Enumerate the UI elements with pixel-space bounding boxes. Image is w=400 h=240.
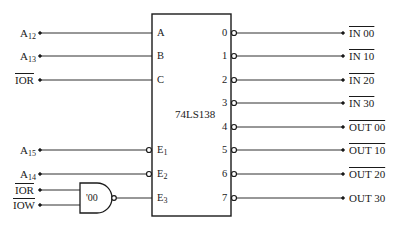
pin-out-5: 5 bbox=[222, 144, 227, 156]
signal-in20: IN 20 bbox=[349, 74, 374, 86]
signal-in10: IN 10 bbox=[349, 50, 374, 62]
pin-out-1: 1 bbox=[222, 50, 227, 62]
signal-out00: OUT 00 bbox=[349, 121, 385, 133]
pin-e3: E3 bbox=[157, 192, 167, 207]
pin-e1: E1 bbox=[157, 144, 167, 159]
signal-out10: OUT 10 bbox=[349, 144, 385, 156]
nand-output-bubble bbox=[112, 196, 117, 201]
pin-a: A bbox=[157, 27, 165, 39]
e2-bubble bbox=[147, 172, 152, 177]
signal-a12: A12 bbox=[20, 27, 36, 43]
pin-out-3: 3 bbox=[222, 97, 227, 109]
pin-b: B bbox=[157, 50, 164, 62]
signal-a15: A15 bbox=[20, 144, 36, 160]
pin-e2: E2 bbox=[157, 168, 167, 183]
nand-gate-label: '00 bbox=[86, 192, 98, 203]
pin-out-0: 0 bbox=[222, 27, 227, 39]
signal-iow-gate: IOW bbox=[13, 199, 35, 211]
signal-out30: OUT 30 bbox=[349, 192, 385, 204]
pin-out-7: 7 bbox=[222, 192, 227, 204]
signal-in00: IN 00 bbox=[349, 27, 374, 39]
signal-a14: A14 bbox=[20, 168, 36, 184]
pin-out-6: 6 bbox=[222, 168, 227, 180]
pin-c: C bbox=[157, 74, 164, 86]
pin-out-4: 4 bbox=[222, 121, 227, 133]
signal-a13: A13 bbox=[20, 50, 36, 66]
e1-bubble bbox=[147, 148, 152, 153]
pin-out-2: 2 bbox=[222, 74, 227, 86]
signal-ior-c: IOR bbox=[15, 74, 34, 86]
chip-name: 74LS138 bbox=[175, 108, 215, 120]
signal-ior-gate: IOR bbox=[15, 184, 34, 196]
signal-in30: IN 30 bbox=[349, 97, 374, 109]
signal-out20: OUT 20 bbox=[349, 168, 385, 180]
